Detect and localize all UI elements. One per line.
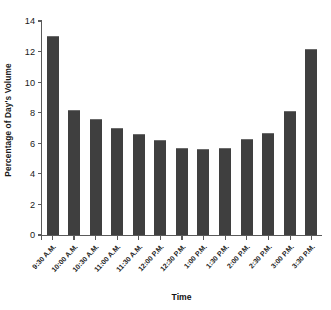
bar-slot <box>257 21 279 235</box>
bar <box>133 134 145 235</box>
bar <box>47 36 59 235</box>
plot-area: 02468101214 <box>41 21 322 236</box>
bar-slot <box>85 21 107 235</box>
bar <box>219 148 231 235</box>
bar-slot <box>300 21 322 235</box>
x-axis-tick-mark <box>95 236 96 240</box>
bar-slot <box>236 21 258 235</box>
x-axis-tick-mark <box>41 236 42 240</box>
bar <box>176 148 188 235</box>
y-axis-tick-label: 8 <box>30 109 38 118</box>
x-axis-tick-labels: 9:30 A.M.10:00 A.M.10:30 A.M.11:00 A.M.1… <box>41 241 322 285</box>
bar-slot <box>193 21 215 235</box>
x-axis-tick-mark <box>225 236 226 240</box>
x-axis-tick-mark <box>73 236 74 240</box>
bar-slot <box>279 21 301 235</box>
y-axis-tick-label: 6 <box>30 139 38 148</box>
x-axis-tick-mark <box>311 236 312 240</box>
y-axis-title-text: Percentage of Day's Volume <box>3 63 13 176</box>
y-axis-tick-label: 14 <box>25 17 38 26</box>
bar <box>111 128 123 235</box>
bar <box>197 149 209 235</box>
y-axis-tick-label: 2 <box>30 200 38 209</box>
bar-slot <box>214 21 236 235</box>
x-axis-tick-mark <box>52 236 53 240</box>
bar <box>90 119 102 235</box>
bar-series <box>42 21 322 235</box>
y-axis-title: Percentage of Day's Volume <box>0 0 16 240</box>
x-axis-tick-mark <box>290 236 291 240</box>
bar-slot <box>42 21 64 235</box>
bar <box>284 111 296 235</box>
x-axis-label-slot: 3:30 P.M. <box>300 241 322 285</box>
bar-slot <box>64 21 86 235</box>
x-axis-tick-mark <box>268 236 269 240</box>
y-axis-tick-label: 0 <box>30 231 38 240</box>
y-axis-tick-label: 10 <box>25 78 38 87</box>
y-axis-tick-label: 4 <box>30 170 38 179</box>
x-axis-tick-mark <box>203 236 204 240</box>
bar <box>305 49 317 235</box>
bar <box>68 110 80 235</box>
bar <box>154 140 166 235</box>
bar <box>262 133 274 235</box>
bar-chart-figure: Percentage of Day's Volume 02468101214 9… <box>0 0 331 310</box>
bar-slot <box>150 21 172 235</box>
x-axis-tick-mark <box>181 236 182 240</box>
bar-slot <box>107 21 129 235</box>
x-axis-tick-mark <box>160 236 161 240</box>
bar <box>241 139 253 235</box>
x-axis-title: Time <box>41 292 322 302</box>
bar-slot <box>128 21 150 235</box>
y-axis-tick-label: 12 <box>25 47 38 56</box>
x-axis-tick-mark <box>138 236 139 240</box>
x-axis-tick-mark <box>246 236 247 240</box>
x-axis-tick-mark <box>117 236 118 240</box>
bar-slot <box>171 21 193 235</box>
